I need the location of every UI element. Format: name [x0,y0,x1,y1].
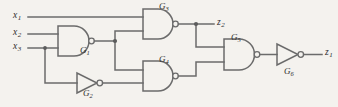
gate-g3-bubble [173,21,179,27]
junction-x3 [43,46,47,50]
input-label-x1: x1 [13,11,21,21]
gate-g5-body [224,39,254,70]
gate-g2-bubble [97,80,103,86]
junction-z2 [194,22,198,26]
gate-label-g5: G5 [231,33,241,42]
gate-g4-bubble [173,73,179,79]
junction-g1-out [113,39,117,43]
gate-label-g4: G4 [159,55,169,64]
gate-g6-body [277,44,298,65]
gate-g1-bubble [89,38,95,44]
gate-g3-body [143,9,173,39]
gate-g5-bubble [254,52,260,58]
gate-g6-bubble [298,52,304,58]
wire-g1-to-g3 [115,31,143,41]
gate-label-g1: G1 [80,46,90,55]
output-label-z1: z1 [325,48,333,58]
wire-g1-to-g4 [115,41,143,70]
wire-x3-branch-to-g2 [45,48,77,83]
circuit-diagram: x1 x2 x3 z2 z1 G1 G2 G3 G4 G5 G6 [0,0,338,107]
wire-g4-to-g5 [179,62,225,76]
input-label-x3: x3 [13,42,21,52]
input-label-x2: x2 [13,28,21,38]
gate-label-g3: G3 [159,2,169,11]
circuit-canvas [0,0,338,107]
gate-label-g6: G6 [284,67,294,76]
output-label-z2: z2 [217,18,225,28]
gate-g4-body [143,61,173,91]
gate-label-g2: G2 [83,89,93,98]
